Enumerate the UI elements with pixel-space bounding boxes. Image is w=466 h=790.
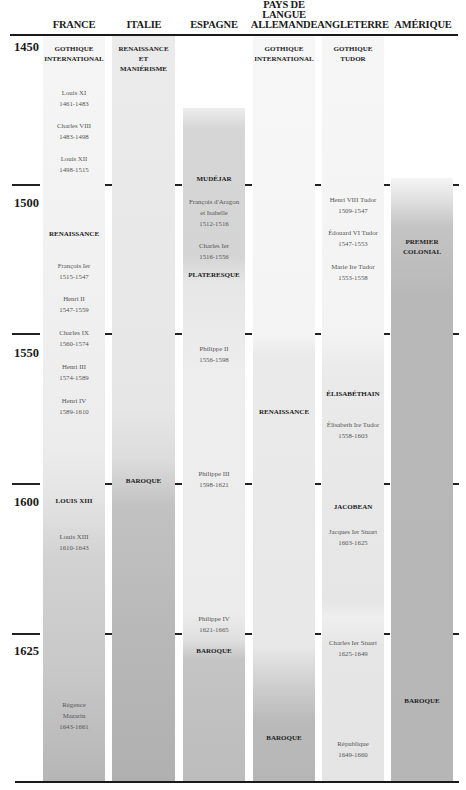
column-amerique: PREMIERCOLONIAL BAROQUE [391, 178, 453, 781]
ruler-regence-mazarin: RégenceMazarin1643-1661 [43, 699, 105, 732]
ruler-francois-aragon-isabelle: François d'Aragonet Isabelle1512-1516 [183, 196, 245, 229]
ruler-francois-i: François Ier1515-1547 [43, 260, 105, 282]
ruler-republique: République1649-1660 [322, 738, 384, 760]
column-pays-allemands: GOTHIQUEINTERNATIONAL RENAISSANCE BAROQU… [253, 36, 315, 781]
style-renaissance-manierisme: RENAISSANCEETMANIÉRISME [112, 44, 175, 74]
column-angleterre: GOTHIQUETUDOR Henri VIII Tudor1509-1547 … [322, 36, 384, 781]
ruler-philippe-iv: Philippe IV1621-1665 [183, 613, 245, 635]
year-1450: 1450 [14, 40, 39, 55]
year-tick-1625 [12, 633, 40, 635]
ruler-charles-viii: Charles VIII1483-1498 [43, 120, 105, 142]
style-baroque: BAROQUE [253, 733, 315, 743]
ruler-jacques-i: Jacques Ier Stuart1603-1625 [322, 526, 384, 548]
year-1550: 1550 [14, 346, 39, 361]
header-france: FRANCE [40, 0, 108, 34]
ruler-philippe-iii: Philippe III1598-1621 [183, 468, 245, 490]
header-angleterre: ANGLETERRE [316, 0, 390, 34]
bottom-rule [15, 781, 459, 783]
year-1625: 1625 [14, 644, 39, 659]
style-jacobean: JACOBEAN [322, 502, 384, 512]
style-baroque: BAROQUE [112, 476, 175, 486]
column-italie: RENAISSANCEETMANIÉRISME BAROQUE [112, 36, 175, 781]
style-renaissance: RENAISSANCE [43, 229, 105, 239]
ruler-charles-ix: Charles IX1560-1574 [43, 327, 105, 349]
style-gothique-international: GOTHIQUEINTERNATIONAL [253, 44, 315, 64]
ruler-louis-xi: Louis XI1461-1483 [43, 87, 105, 109]
year-tick-1500 [12, 184, 40, 186]
year-tick-1600 [12, 483, 40, 485]
style-mudejar: MUDÉJAR [183, 174, 245, 184]
ruler-henri-ii: Henri II1547-1559 [43, 293, 105, 315]
ruler-henri-viii: Henri VIII Tudor1509-1547 [322, 194, 384, 216]
ruler-louis-xii: Louis XII1498-1515 [43, 153, 105, 175]
style-baroque: BAROQUE [183, 646, 245, 656]
style-elisabethain: ÉLISABÉTHAIN [322, 389, 384, 399]
ruler-charles-i: Charles Ier1516-1556 [183, 240, 245, 262]
column-france: GOTHIQUEINTERNATIONAL Louis XI1461-1483 … [43, 36, 105, 781]
style-renaissance: RENAISSANCE [253, 407, 315, 417]
ruler-marie-i: Marie Ire Tudor1553-1558 [322, 261, 384, 283]
style-gothique-tudor: GOTHIQUETUDOR [322, 44, 384, 64]
ruler-louis-xiii: Louis XIII1610-1643 [43, 531, 105, 553]
header-italie: ITALIE [110, 0, 178, 34]
column-espagne: MUDÉJAR François d'Aragonet Isabelle1512… [183, 108, 245, 781]
ruler-philippe-ii: Philippe II1556-1598 [183, 343, 245, 365]
year-tick-1550 [12, 333, 40, 335]
ruler-elisabeth-i: Élisabeth Ire Tudor1558-1603 [322, 419, 384, 441]
ruler-edouard-vi: Édouard VI Tudor1547-1553 [322, 227, 384, 249]
header-espagne: ESPAGNE [180, 0, 248, 34]
style-baroque: BAROQUE [391, 696, 453, 706]
header-pays-allemands: PAYS DE LANGUE ALLEMANDE [248, 0, 320, 34]
style-premier-colonial: PREMIERCOLONIAL [391, 237, 453, 257]
header-amerique: AMÉRIQUE [388, 0, 458, 34]
ruler-charles-i-stuart: Charles Ier Stuart1625-1649 [322, 637, 384, 659]
style-louis-xiii: LOUIS XIII [43, 496, 105, 506]
ruler-henri-iv: Henri IV1589-1610 [43, 395, 105, 417]
style-plateresque: PLATERESQUE [183, 270, 245, 280]
header-pays-line3: ALLEMANDE [251, 20, 317, 30]
year-1600: 1600 [14, 495, 39, 510]
ruler-henri-iii: Henri III1574-1589 [43, 361, 105, 383]
style-gothique-international: GOTHIQUEINTERNATIONAL [43, 44, 105, 64]
year-1500: 1500 [14, 196, 39, 211]
